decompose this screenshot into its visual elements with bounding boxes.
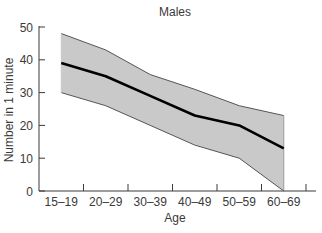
y-tick-label: 20 [20,119,34,133]
x-tick-label: 15–19 [45,195,79,209]
chart-title: Males [159,5,191,19]
x-tick-label: 60–69 [267,195,301,209]
y-tick-label: 0 [26,185,33,199]
confidence-band [61,34,284,191]
x-axis-label: Age [164,211,186,225]
y-tick-label: 10 [20,152,34,166]
y-axis-label: Number in 1 minute [2,57,16,162]
x-tick-label: 40–49 [178,195,212,209]
y-tick-label: 50 [20,21,34,35]
y-axis: 01020304050 [20,21,45,199]
y-tick-label: 40 [20,53,34,67]
x-tick-label: 50–59 [223,195,257,209]
x-axis: 15–1920–2930–3940–4950–5960–69 [39,184,316,209]
chart: Males 01020304050 15–1920–2930–3940–4950… [0,0,322,233]
y-tick-label: 30 [20,86,34,100]
x-tick-label: 30–39 [134,195,168,209]
x-tick-label: 20–29 [89,195,123,209]
